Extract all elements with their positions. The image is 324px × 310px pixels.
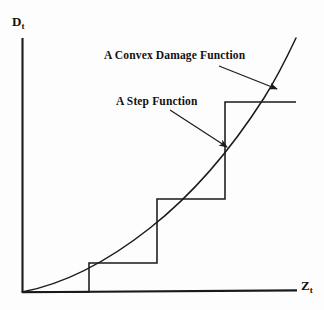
step-annotation-arrow [170, 110, 227, 147]
convex-damage-curve [22, 38, 296, 292]
x-axis-label-main: Z [301, 278, 310, 293]
x-axis-label: Zt [301, 279, 313, 295]
step-function-annotation-label: A Step Function [116, 96, 198, 108]
y-axis-label-main: D [12, 14, 21, 29]
diagram-svg [0, 0, 324, 310]
y-axis-label-subscript: t [21, 21, 24, 31]
convex-damage-function-annotation-label: A Convex Damage Function [104, 50, 245, 62]
x-axis-label-subscript: t [310, 285, 313, 295]
figure-canvas: Dt Zt A Convex Damage Function A Step Fu… [0, 0, 324, 310]
step-function-curve [22, 102, 296, 292]
convex-annotation-arrow [219, 66, 277, 89]
y-axis-label: Dt [12, 15, 24, 31]
